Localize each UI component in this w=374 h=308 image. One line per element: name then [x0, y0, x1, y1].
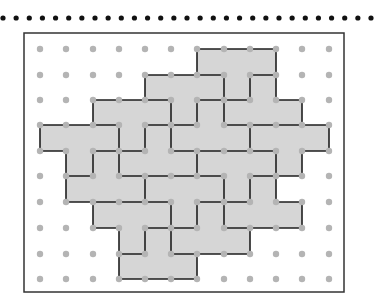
grid-dot	[116, 97, 122, 103]
grid-dot	[221, 122, 227, 128]
rule-dot	[14, 15, 19, 20]
grid-dot	[273, 97, 279, 103]
grid-dot	[194, 46, 200, 52]
grid-dot	[142, 251, 148, 257]
grid-dot	[326, 251, 332, 257]
grid-dot	[63, 46, 69, 52]
grid-dot	[37, 97, 43, 103]
grid-dot	[221, 199, 227, 205]
grid-dot	[142, 199, 148, 205]
dot-grid-puzzle-diagram	[0, 0, 374, 308]
grid-dot	[273, 276, 279, 282]
rule-dot	[276, 15, 281, 20]
grid-dot	[299, 276, 305, 282]
grid-dot	[194, 148, 200, 154]
grid-dot	[116, 276, 122, 282]
grid-dot	[273, 148, 279, 154]
grid-dot	[37, 173, 43, 179]
grid-dot	[247, 251, 253, 257]
grid-dot	[63, 276, 69, 282]
grid-dot	[326, 225, 332, 231]
shaded-row-band	[145, 75, 276, 100]
grid-dot	[116, 173, 122, 179]
grid-dot	[299, 251, 305, 257]
grid-dot	[90, 122, 96, 128]
rule-dot	[132, 15, 137, 20]
rule-dot	[171, 15, 176, 20]
grid-dot	[221, 276, 227, 282]
grid-dot	[273, 46, 279, 52]
grid-dot	[299, 199, 305, 205]
grid-dot	[326, 199, 332, 205]
grid-dot	[63, 122, 69, 128]
grid-dot	[247, 72, 253, 78]
rule-dot	[106, 15, 111, 20]
rule-dot	[263, 15, 268, 20]
rule-dot	[40, 15, 45, 20]
grid-dot	[273, 251, 279, 257]
rule-dot	[92, 15, 97, 20]
rule-dot	[368, 15, 373, 20]
grid-dot	[299, 97, 305, 103]
grid-dot	[168, 148, 174, 154]
grid-dot	[37, 199, 43, 205]
grid-dot	[273, 173, 279, 179]
grid-dot	[37, 46, 43, 52]
rule-dot	[329, 15, 334, 20]
grid-dot	[221, 72, 227, 78]
grid-dot	[142, 173, 148, 179]
grid-dot	[326, 173, 332, 179]
grid-dot	[63, 199, 69, 205]
rule-dot	[355, 15, 360, 20]
grid-dot	[63, 225, 69, 231]
grid-dot	[142, 148, 148, 154]
grid-dot	[194, 251, 200, 257]
rule-dot	[27, 15, 32, 20]
rule-dot	[224, 15, 229, 20]
grid-dot	[168, 251, 174, 257]
grid-dot	[247, 97, 253, 103]
grid-dot	[37, 122, 43, 128]
grid-dot	[142, 97, 148, 103]
grid-dot	[273, 72, 279, 78]
rule-dot	[53, 15, 58, 20]
dotted-divider-rule	[0, 15, 373, 20]
shaded-row-band	[66, 176, 276, 202]
grid-dot	[37, 251, 43, 257]
grid-dot	[299, 46, 305, 52]
grid-dot	[221, 251, 227, 257]
grid-dot	[168, 199, 174, 205]
grid-dot	[37, 276, 43, 282]
grid-dot	[326, 97, 332, 103]
grid-dot	[63, 97, 69, 103]
grid-dot	[142, 122, 148, 128]
grid-dot	[194, 199, 200, 205]
grid-dot	[168, 276, 174, 282]
grid-dot	[194, 225, 200, 231]
rule-dot	[184, 15, 189, 20]
grid-dot	[247, 199, 253, 205]
rule-dot	[316, 15, 321, 20]
rule-dot	[303, 15, 308, 20]
grid-dot	[247, 122, 253, 128]
grid-dot	[37, 225, 43, 231]
grid-dot	[116, 72, 122, 78]
grid-dot	[326, 276, 332, 282]
shaded-row-band	[40, 125, 329, 151]
grid-dot	[142, 72, 148, 78]
rule-dot	[119, 15, 124, 20]
grid-dot	[37, 148, 43, 154]
grid-dot	[90, 97, 96, 103]
grid-dot	[247, 148, 253, 154]
grid-dot	[247, 46, 253, 52]
grid-dot	[194, 97, 200, 103]
grid-dot	[221, 97, 227, 103]
grid-dot	[273, 199, 279, 205]
grid-dot	[221, 225, 227, 231]
grid-dot	[273, 122, 279, 128]
grid-dot	[326, 122, 332, 128]
grid-dot	[194, 122, 200, 128]
grid-dot	[247, 173, 253, 179]
grid-dot	[37, 72, 43, 78]
rule-dot	[290, 15, 295, 20]
